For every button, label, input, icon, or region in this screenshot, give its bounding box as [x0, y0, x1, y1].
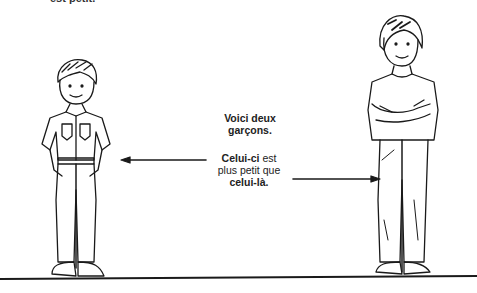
small-boy-figure [42, 60, 110, 276]
ground-line [0, 276, 477, 279]
arrow-left-icon [121, 157, 206, 163]
illustration-drawing [0, 0, 477, 293]
arrow-right-icon [293, 176, 380, 182]
tall-boy-figure [368, 16, 438, 274]
